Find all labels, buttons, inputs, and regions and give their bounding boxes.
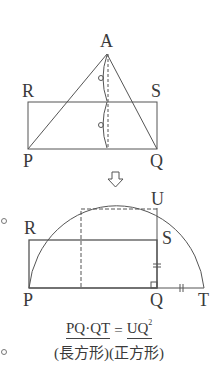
label-t: T [198, 291, 209, 309]
label-p: P [23, 152, 33, 170]
caption-square: (正方形) [109, 341, 164, 362]
down-arrow-icon [108, 172, 123, 187]
label-q: Q [150, 152, 163, 170]
bullet-marker-1 [2, 219, 7, 224]
figure-1 [28, 54, 157, 149]
formula-exponent: 2 [148, 318, 152, 327]
formula-left: PQ·QT [66, 320, 110, 339]
formula-right: UQ [127, 320, 149, 336]
bullet-marker-2 [2, 350, 7, 355]
rectangle-pqsr-2 [29, 240, 157, 288]
label-q2: Q [150, 291, 163, 309]
label-u: U [151, 190, 164, 208]
right-angle-mark [151, 282, 157, 288]
caption-rectangle: (長方形) [54, 341, 109, 362]
dashed-square [81, 209, 157, 288]
label-a: A [100, 32, 113, 50]
label-p2: P [23, 291, 33, 309]
label-r: R [22, 82, 34, 100]
formula: PQ·QT = UQ2 (長方形) (正方形) [66, 318, 214, 362]
formula-right-wrap: UQ2 [127, 318, 153, 339]
formula-equals: = [114, 322, 122, 339]
label-s2: S [162, 229, 172, 247]
label-s: S [151, 82, 161, 100]
figure-2 [29, 206, 204, 292]
semicircle [29, 206, 204, 288]
label-r2: R [24, 219, 36, 237]
